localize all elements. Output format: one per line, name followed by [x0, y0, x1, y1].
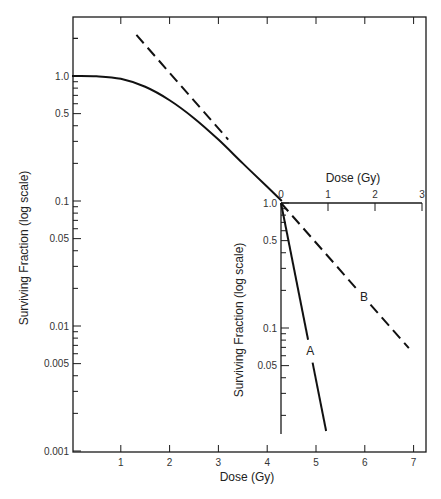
- line-A: [281, 203, 308, 340]
- main-x-tick-label: 7: [411, 457, 417, 468]
- main-survival-curve: [72, 76, 282, 201]
- inset-x-axis-label: Dose (Gy): [326, 171, 381, 185]
- inset-plot-frame: [281, 203, 422, 434]
- main-y-ticks: 1.00.50.10.050.010.0050.001: [44, 38, 81, 456]
- main-x-tick-label: 6: [362, 457, 368, 468]
- line-B: [281, 203, 358, 290]
- inset-y-tick-label: 0.05: [258, 360, 278, 371]
- main-y-axis-label: Surviving Fraction (log scale): [17, 171, 31, 326]
- line-A-label: A: [306, 344, 314, 358]
- main-y-tick-label: 0.05: [50, 233, 70, 244]
- inset-series: AB: [281, 203, 409, 431]
- main-plot-frame: [73, 17, 426, 452]
- main-x-tick-label: 1: [118, 457, 124, 468]
- main-extrapolation-line: [136, 35, 228, 140]
- main-y-tick-label: 1.0: [55, 71, 69, 82]
- inset-x-tick-label: 1: [325, 189, 331, 200]
- inset-y-ticks: 1.00.50.10.05: [258, 198, 289, 416]
- main-plot-border: [73, 17, 426, 452]
- inset-y-tick-label: 1.0: [263, 198, 277, 209]
- line-B: [370, 305, 408, 349]
- line-A: [313, 363, 327, 431]
- inset-y-tick-label: 0.1: [263, 323, 277, 334]
- main-series: [72, 35, 282, 201]
- main-y-tick-label: 0.01: [50, 321, 70, 332]
- inset-y-axis-label: Surviving Fraction (log scale): [232, 243, 246, 398]
- inset-y-tick-label: 0.5: [263, 235, 277, 246]
- inset-x-tick-label: 2: [372, 189, 378, 200]
- main-x-axis-label: Dose (Gy): [220, 470, 275, 484]
- main-y-tick-label: 0.005: [44, 358, 69, 369]
- inset-x-ticks: 0123: [278, 189, 425, 211]
- main-y-tick-label: 0.001: [44, 446, 69, 457]
- main-y-tick-label: 0.1: [55, 196, 69, 207]
- main-x-tick-label: 2: [167, 457, 173, 468]
- inset-x-tick-label: 3: [419, 189, 425, 200]
- line-B-label: B: [360, 290, 368, 304]
- main-y-tick-label: 0.5: [55, 108, 69, 119]
- inset-x-tick-label: 0: [278, 189, 284, 200]
- survival-curve-chart: 1234567 1.00.50.10.050.010.0050.001 Dose…: [0, 0, 441, 499]
- main-x-tick-label: 3: [216, 457, 222, 468]
- main-x-tick-label: 5: [313, 457, 319, 468]
- main-x-tick-label: 4: [264, 457, 270, 468]
